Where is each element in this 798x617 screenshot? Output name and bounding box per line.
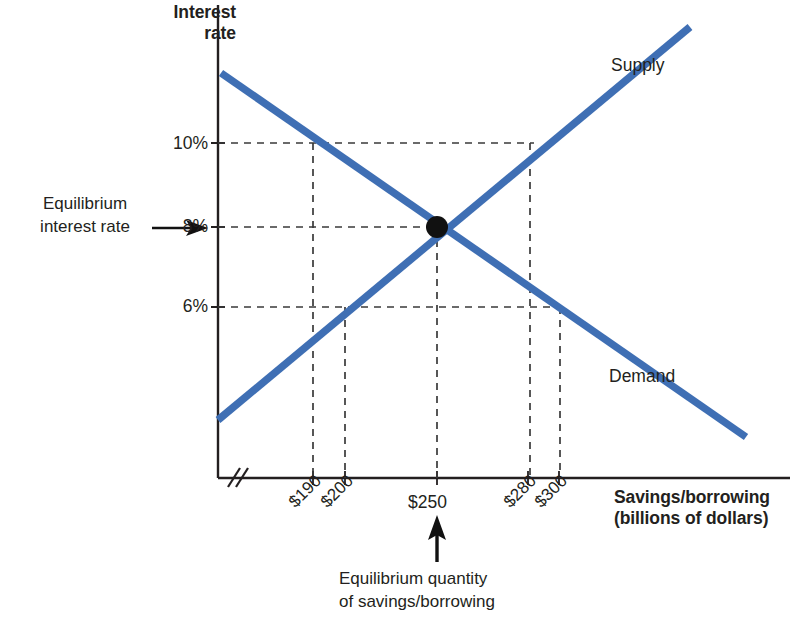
equilibrium-point-marker <box>426 216 448 238</box>
demand-curve-label: Demand <box>609 366 675 387</box>
supply-curve-label: Supply <box>611 55 665 76</box>
equilibrium-interest-rate-callout: Equilibrium interest rate <box>14 193 156 239</box>
y-axis-title: Interest rate <box>128 2 236 43</box>
supply-curve <box>218 27 690 420</box>
x-axis-title: Savings/borrowing (billions of dollars) <box>614 487 794 528</box>
y-tick-label-6-percent: 6% <box>162 296 208 317</box>
figure-canvas: Interest rate Savings/borrowing (billion… <box>0 0 798 617</box>
equilibrium-quantity-callout: Equilibrium quantity of savings/borrowin… <box>339 568 589 614</box>
x-tick-label-250: $250 <box>408 492 447 513</box>
y-tick-label-8-percent: 8% <box>162 216 208 237</box>
y-tick-label-10-percent: 10% <box>162 133 208 154</box>
equilibrium-quantity-arrow-icon <box>428 515 446 562</box>
